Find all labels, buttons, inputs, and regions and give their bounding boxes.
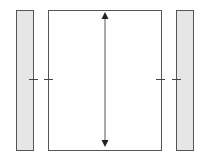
double-headed-arrow-icon [0,0,203,157]
